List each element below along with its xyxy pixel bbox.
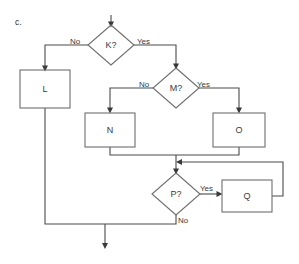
arrowhead-Q-feedback bbox=[176, 159, 182, 165]
panel-label: c. bbox=[15, 17, 22, 27]
flowchart-svg: K? L M? N O P? Q No Yes No Yes bbox=[0, 0, 299, 264]
edge-K-no-to-L bbox=[45, 45, 88, 70]
edge-O-to-merge bbox=[176, 147, 239, 155]
edge-L-to-exit bbox=[45, 108, 105, 224]
edge-label-K-yes: Yes bbox=[137, 37, 150, 46]
edge-label-M-no: No bbox=[139, 80, 150, 89]
edge-Q-feedback bbox=[179, 162, 283, 196]
edge-label-K-no: No bbox=[70, 37, 81, 46]
node-M-label: M? bbox=[170, 83, 183, 93]
edge-label-P-yes: Yes bbox=[200, 184, 213, 193]
node-L-label: L bbox=[42, 84, 47, 94]
arrowhead-K-no-to-L bbox=[42, 66, 48, 72]
node-N-label: N bbox=[107, 125, 114, 135]
arrowhead-exit bbox=[102, 243, 108, 249]
edge-K-yes-to-M bbox=[134, 45, 176, 67]
node-K-label: K? bbox=[105, 40, 116, 50]
node-Q-label: Q bbox=[243, 191, 250, 201]
edge-P-no-to-exit bbox=[105, 215, 176, 224]
edge-label-M-yes: Yes bbox=[197, 80, 210, 89]
flowchart-canvas: K? L M? N O P? Q No Yes No Yes bbox=[0, 0, 299, 264]
node-P-label: P? bbox=[170, 189, 181, 199]
node-O-label: O bbox=[235, 125, 242, 135]
edge-M-no-to-N bbox=[110, 88, 153, 111]
edge-M-yes-to-O bbox=[199, 88, 239, 111]
connectors bbox=[42, 15, 283, 249]
nodes: K? L M? N O P? Q bbox=[20, 25, 272, 215]
edge-label-P-no: No bbox=[178, 216, 189, 225]
edge-N-to-merge bbox=[110, 147, 176, 155]
edge-labels: No Yes No Yes Yes No bbox=[70, 37, 213, 225]
